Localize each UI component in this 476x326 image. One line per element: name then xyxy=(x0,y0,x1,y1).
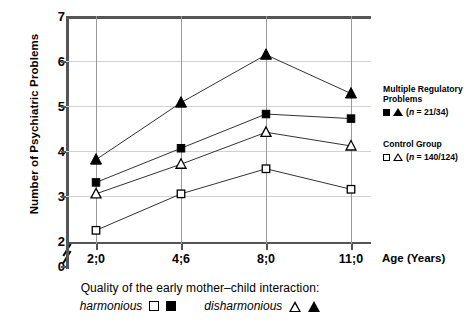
legend-spacer xyxy=(383,117,476,139)
data-point-s2-2 xyxy=(261,127,271,136)
caption-open-square-icon xyxy=(149,301,159,311)
data-point-s1-0 xyxy=(92,179,100,187)
data-point-s3-2 xyxy=(262,165,270,173)
figure-caption: Quality of the early mother–child intera… xyxy=(0,281,400,313)
x-tick-label-8-0: 8;0 xyxy=(236,252,296,266)
data-point-s0-2 xyxy=(261,49,272,60)
x-axis-title: Age (Years) xyxy=(382,252,445,264)
filled-square-icon xyxy=(383,109,390,116)
series-line-0 xyxy=(96,55,351,160)
data-point-s0-3 xyxy=(346,88,357,99)
open-square-icon xyxy=(383,154,390,161)
legend-group2-markers-row: (n = 140/124) xyxy=(383,152,476,162)
legend-group1-markers-row: (n = 21/34) xyxy=(383,107,476,117)
data-point-s2-1 xyxy=(176,159,186,168)
data-point-s3-1 xyxy=(177,190,185,198)
plot-area: 7 6 5 4 3 2 0 2;0 4;6 8;0 11;0 xyxy=(66,16,371,244)
caption-filled-triangle-icon xyxy=(308,301,320,312)
data-point-s0-1 xyxy=(176,97,187,108)
data-point-s1-1 xyxy=(177,144,185,152)
chart-figure: Number of Psychiatric Problems 7 6 5 4 3… xyxy=(0,0,476,326)
caption-filled-square-icon xyxy=(166,301,176,311)
legend-group1-title-line1: Multiple Regulatory xyxy=(383,84,476,94)
x-tick-mark-4-6 xyxy=(181,244,183,250)
legend-group2-n: (n = 140/124) xyxy=(406,152,458,162)
caption-harmonious-label: harmonious xyxy=(80,299,143,313)
legend-group2-title-line1: Control Group xyxy=(383,139,476,149)
data-series-layer xyxy=(66,16,371,244)
data-point-s0-0 xyxy=(91,154,102,165)
data-point-s2-0 xyxy=(91,188,101,197)
y-tick-label-6: 6 xyxy=(25,55,65,68)
x-tick-mark-11-0 xyxy=(351,244,353,250)
y-tick-label-3: 3 xyxy=(25,190,65,203)
x-tick-mark-8-0 xyxy=(266,244,268,250)
legend-group1-title-line2: Problems xyxy=(383,94,476,104)
caption-disharmonious-label: disharmonious xyxy=(204,299,282,313)
legend-group1-n: (n = 21/34) xyxy=(406,107,448,117)
x-tick-label-11-0: 11;0 xyxy=(321,252,381,266)
y-tick-label-0: 0 xyxy=(25,260,65,273)
series-line-3 xyxy=(96,169,351,231)
x-tick-label-2-0: 2;0 xyxy=(66,252,126,266)
data-point-s3-0 xyxy=(92,227,100,235)
data-point-s1-2 xyxy=(262,110,270,118)
data-point-s3-3 xyxy=(347,186,355,194)
caption-open-triangle-icon xyxy=(289,301,301,312)
x-tick-label-4-6: 4;6 xyxy=(151,252,211,266)
y-tick-label-2: 2 xyxy=(25,235,65,248)
y-tick-label-4: 4 xyxy=(25,145,65,158)
filled-triangle-icon xyxy=(393,108,403,116)
open-triangle-icon xyxy=(393,153,403,161)
y-tick-label-5: 5 xyxy=(25,100,65,113)
series-line-2 xyxy=(96,132,351,194)
caption-line-2: harmonious disharmonious xyxy=(0,299,400,313)
y-tick-label-7: 7 xyxy=(25,10,65,23)
data-point-s1-3 xyxy=(347,115,355,123)
chart-legend: Multiple Regulatory Problems (n = 21/34)… xyxy=(383,84,476,162)
x-tick-mark-2-0 xyxy=(96,244,98,250)
caption-line-1: Quality of the early mother–child intera… xyxy=(0,281,400,295)
